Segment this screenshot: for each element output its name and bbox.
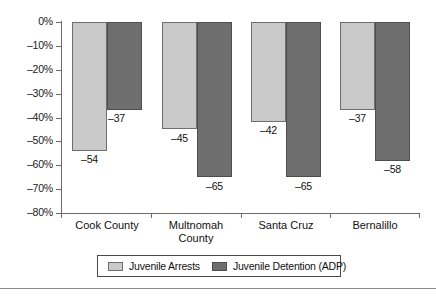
bar-value-santa-cruz-juvenile-arrests: –42	[249, 124, 288, 136]
bar-value-cook-county-juvenile-arrests: –54	[70, 153, 109, 165]
bar-santa-cruz-juvenile-detention[interactable]	[286, 22, 321, 177]
legend-label-juvenile-arrests: Juvenile Arrests	[129, 260, 200, 272]
bar-group-cook-county: –54 –37	[72, 22, 142, 213]
legend-swatch-icon-juvenile-detention	[212, 262, 227, 271]
x-tick-1	[151, 213, 152, 218]
x-tick-2	[241, 213, 242, 218]
bar-value-cook-county-juvenile-detention: –37	[108, 112, 147, 124]
bar-cook-county-juvenile-detention[interactable]	[107, 22, 142, 110]
footer-divider	[0, 288, 436, 289]
bar-value-bernalillo-juvenile-arrests: –37	[338, 112, 377, 124]
legend-label-juvenile-detention: Juvenile Detention (ADP)	[233, 260, 346, 272]
legend-swatch-icon-juvenile-arrests	[108, 262, 123, 271]
x-tick-3	[330, 213, 331, 218]
y-axis-label-2: –20%	[1, 63, 53, 75]
y-axis-label-7: –70%	[1, 182, 53, 194]
bar-group-bernalillo: –37 –58	[340, 22, 410, 213]
bar-group-santa-cruz: –42 –65	[251, 22, 321, 213]
y-axis-label-8: –80%	[1, 206, 53, 218]
y-axis-label-3: –30%	[1, 87, 53, 99]
bar-value-bernalillo-juvenile-detention: –58	[373, 163, 412, 175]
juvenile-arrests-detention-bar-chart: 0% –10% –20% –30% –40% –50% –60% –70%	[0, 0, 436, 296]
bar-multnomah-county-juvenile-arrests[interactable]	[162, 22, 197, 129]
bar-value-santa-cruz-juvenile-detention: –65	[284, 180, 323, 192]
chart-legend: Juvenile Arrests Juvenile Detention (ADP…	[97, 255, 341, 277]
y-axis-label-1: –10%	[1, 39, 53, 51]
legend-item-juvenile-detention[interactable]: Juvenile Detention (ADP)	[212, 260, 346, 272]
bar-bernalillo-juvenile-detention[interactable]	[375, 22, 410, 161]
bar-bernalillo-juvenile-arrests[interactable]	[340, 22, 375, 110]
bar-cook-county-juvenile-arrests[interactable]	[72, 22, 107, 151]
bar-multnomah-county-juvenile-detention[interactable]	[197, 22, 232, 177]
bar-value-multnomah-county-juvenile-arrests: –45	[160, 132, 199, 144]
plot-area: –54 –37 –45 –65 –42 –65 –37 –58	[62, 22, 420, 213]
y-axis-label-6: –60%	[1, 158, 53, 170]
y-axis-label-0: 0%	[1, 15, 53, 27]
bar-value-multnomah-county-juvenile-detention: –65	[195, 180, 234, 192]
x-tick-end	[419, 213, 420, 218]
bar-santa-cruz-juvenile-arrests[interactable]	[251, 22, 286, 122]
legend-item-juvenile-arrests[interactable]: Juvenile Arrests	[108, 260, 200, 272]
y-axis-label-5: –50%	[1, 134, 53, 146]
x-axis-label-bernalillo: Bernalillo	[320, 219, 430, 232]
bar-group-multnomah-county: –45 –65	[162, 22, 232, 213]
x-tick-start	[61, 213, 62, 218]
y-axis-label-4: –40%	[1, 111, 53, 123]
